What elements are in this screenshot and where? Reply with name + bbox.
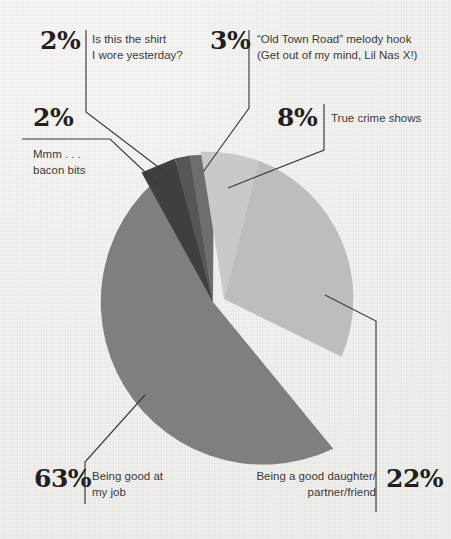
caption-job: Being good at my job <box>92 468 163 501</box>
percent-label-crime: 8% <box>277 105 317 130</box>
caption-shirt: Is this the shirt I wore yesterday? <box>92 31 183 64</box>
percent-label-job: 63% <box>34 466 91 491</box>
percent-label-daughter: 22% <box>386 466 443 491</box>
caption-daughter: Being a good daughter/ partner/friend <box>230 468 376 501</box>
caption-crime: True crime shows <box>331 110 421 126</box>
pie-slices <box>101 152 354 465</box>
percent-label-song: 3% <box>210 28 250 53</box>
percent-label-bacon: 2% <box>33 105 73 130</box>
caption-bacon: Mmm . . . bacon bits <box>33 146 85 179</box>
caption-song: “Old Town Road” melody hook (Get out of … <box>257 31 417 64</box>
percent-label-shirt: 2% <box>40 28 80 53</box>
pie-chart: 2% Is this the shirt I wore yesterday? 3… <box>0 0 451 539</box>
pie-chart-canvas <box>0 0 451 539</box>
